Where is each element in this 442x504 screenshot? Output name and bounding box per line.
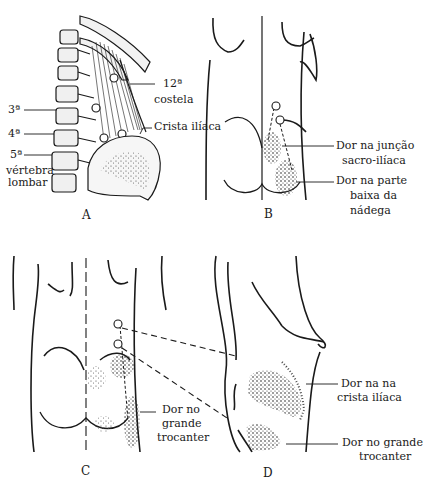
label-gt-pain-c-3: trocanter bbox=[157, 432, 209, 444]
panel-b-drawing bbox=[206, 16, 334, 200]
label-crest-pain-2: crista ilíaca bbox=[337, 392, 402, 404]
panel-letter-c: C bbox=[81, 464, 90, 478]
anatomy-illustration bbox=[0, 0, 442, 504]
label-low-buttock-3: nádega bbox=[350, 205, 391, 217]
label-5th-vertebra: 5ª bbox=[10, 149, 22, 161]
label-low-buttock-2: baixa da bbox=[350, 190, 397, 202]
label-gt-pain-c-1: Dor no bbox=[162, 404, 200, 416]
panel-c-drawing bbox=[13, 256, 236, 452]
label-sij-pain-2: sacro-ilíaca bbox=[342, 155, 406, 167]
label-3rd-vertebra: 3ª bbox=[8, 104, 20, 116]
label-costela: costela bbox=[154, 94, 193, 106]
label-crest-pain-1: Dor na na bbox=[341, 378, 396, 390]
label-4th-vertebra: 4ª bbox=[8, 128, 20, 140]
label-sij-pain-1: Dor na junção bbox=[336, 140, 414, 152]
label-lombar: lombar bbox=[8, 177, 47, 189]
label-gt-pain-d-1: Dor no grande bbox=[342, 437, 423, 449]
label-gt-pain-c-2: grande bbox=[162, 418, 202, 430]
panel-letter-a: A bbox=[82, 208, 91, 222]
label-low-buttock-1: Dor na parte bbox=[336, 175, 407, 187]
panel-d-drawing bbox=[215, 256, 338, 452]
label-12th-rib: 12ª bbox=[163, 78, 182, 90]
label-iliac-crest: Crista ilíaca bbox=[154, 121, 221, 133]
panel-letter-d: D bbox=[263, 466, 273, 480]
panel-letter-b: B bbox=[264, 207, 273, 221]
label-gt-pain-d-2: trocanter bbox=[359, 451, 411, 463]
